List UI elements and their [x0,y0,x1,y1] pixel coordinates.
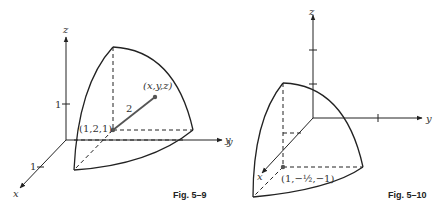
x-axis-label: x [257,171,263,182]
x-axis [262,118,313,173]
sphere-top-right-arc [283,83,363,167]
sphere-point [153,95,157,99]
dashed-diagonal [74,130,113,170]
x-axis [20,140,66,188]
sphere-bottom-arc [74,130,193,170]
figure-caption: Fig. 5–10 [388,190,427,200]
figure-caption: Fig. 5–9 [173,190,207,200]
center-point [281,165,285,169]
y-axis-label: y [425,113,432,124]
figure-5-10: z y x (1,−½,−1) y Fig. 5–10 [226,6,432,200]
figure-5-9: z y x 1 1 (1,2,1) (x,y,z) 2 Fig. 5–9 [13,24,231,200]
center-label: (1,−½,−1) [281,173,334,184]
radius-label: 2 [126,103,132,114]
z-tick-label: 1 [55,99,61,110]
x-tick-label: 1 [30,161,36,172]
radius-segment [113,97,155,130]
figures-canvas: z y x 1 1 (1,2,1) (x,y,z) 2 Fig. 5–9 z y… [0,0,448,216]
z-axis-label: z [62,24,69,35]
point-label: (x,y,z) [143,80,172,91]
x-axis-label: x [13,188,19,199]
sphere-left-arc [74,47,113,170]
z-axis-label: z [308,6,315,17]
stray-y-label: y [226,136,233,147]
center-label: (1,2,1) [79,123,112,134]
